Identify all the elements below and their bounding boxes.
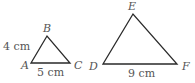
vertex-label-a: A xyxy=(20,59,29,72)
vertex-label-b: B xyxy=(42,22,51,35)
triangle-abc: A B C 4 cm 5 cm xyxy=(3,22,83,79)
triangle-def-shape xyxy=(103,14,177,64)
side-label-ac: 5 cm xyxy=(37,66,65,79)
similar-triangles-diagram: A B C 4 cm 5 cm D E F 9 cm xyxy=(0,0,195,83)
vertex-label-f: F xyxy=(181,60,190,73)
vertex-label-c: C xyxy=(74,59,83,72)
vertex-label-d: D xyxy=(88,60,98,73)
triangle-abc-shape xyxy=(31,36,70,63)
vertex-label-e: E xyxy=(127,0,136,13)
triangle-def: D E F 9 cm xyxy=(88,0,190,80)
side-label-ab: 4 cm xyxy=(3,40,31,53)
side-label-df: 9 cm xyxy=(128,67,156,80)
